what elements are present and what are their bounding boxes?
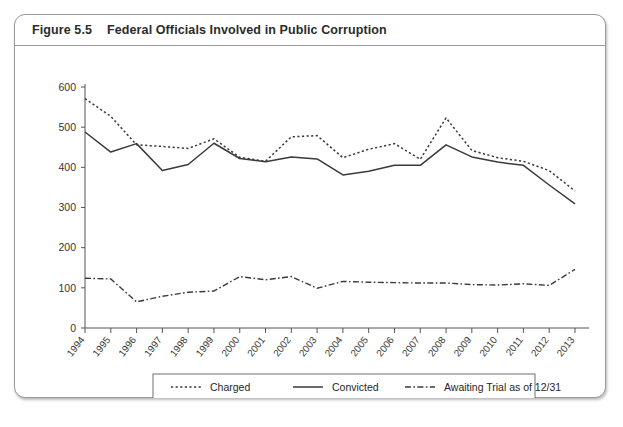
y-tick-label: 200	[58, 241, 76, 253]
legend-label-3: Awaiting Trial as of 12/31	[444, 381, 561, 393]
x-tick-label: 2004	[322, 334, 344, 358]
x-tick-label: 2007	[400, 334, 422, 358]
legend-label-1: Charged	[210, 381, 250, 393]
x-tick-label: 1995	[90, 334, 112, 358]
x-tick-label: 1994	[64, 334, 86, 358]
y-axis: 0100200300400500600	[58, 81, 85, 334]
figure-header: Figure 5.5 Federal Officials Involved in…	[15, 15, 605, 46]
figure-number: Figure 5.5	[32, 23, 92, 37]
series-line-awaiting-trial-as-of-12-31	[85, 269, 575, 302]
x-tick-label: 1998	[168, 334, 190, 358]
chart-legend: ChargedConvictedAwaiting Trial as of 12/…	[153, 374, 561, 398]
figure-title: Federal Officials Involved in Public Cor…	[107, 23, 387, 37]
y-tick-label: 500	[58, 121, 76, 133]
x-tick-label: 2002	[271, 334, 293, 358]
x-tick-label: 2003	[297, 334, 319, 358]
x-tick-label: 2010	[477, 334, 499, 358]
x-tick-label: 2008	[426, 334, 448, 358]
x-axis: 1994199519961997199819992000200120022003…	[64, 328, 589, 358]
x-tick-label: 2000	[219, 334, 241, 358]
series-line-charged	[85, 99, 575, 191]
x-tick-label: 2011	[503, 334, 525, 357]
line-chart: 0100200300400500600 19941995199619971998…	[15, 46, 607, 398]
x-tick-label: 2012	[529, 334, 551, 358]
chart-plot-area: 0100200300400500600 19941995199619971998…	[15, 46, 607, 398]
y-tick-label: 600	[58, 81, 76, 93]
x-tick-label: 1997	[142, 334, 164, 358]
x-tick-label: 2013	[554, 334, 576, 358]
series-line-convicted	[85, 132, 575, 204]
x-tick-label: 2006	[374, 334, 396, 358]
y-tick-label: 100	[58, 282, 76, 294]
figure-card: Figure 5.5 Federal Officials Involved in…	[14, 14, 606, 398]
x-tick-label: 2005	[348, 334, 370, 358]
x-tick-label: 1996	[116, 334, 138, 358]
x-tick-label: 2001	[245, 334, 267, 358]
y-tick-label: 400	[58, 161, 76, 173]
x-tick-label: 2009	[451, 334, 473, 358]
y-tick-label: 0	[70, 322, 76, 334]
data-series-group	[85, 99, 575, 302]
legend-label-2: Convicted	[332, 381, 379, 393]
y-tick-label: 300	[58, 201, 76, 213]
x-tick-label: 1999	[193, 334, 215, 358]
